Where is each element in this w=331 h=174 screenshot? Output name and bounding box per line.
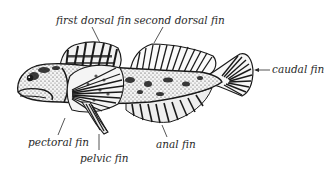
caudal-arrowhead-icon: [254, 68, 259, 72]
label-second-dorsal-fin: second dorsal fin: [134, 15, 225, 26]
fish-anatomy-diagram: first dorsal fin second dorsal fin cauda…: [0, 0, 331, 174]
label-anal-fin: anal fin: [156, 139, 196, 150]
pectoral-fin-shape: [67, 65, 123, 112]
label-first-dorsal-fin: first dorsal fin: [56, 15, 131, 26]
caudal-fin-shape: [210, 54, 253, 96]
label-pelvic-fin: pelvic fin: [80, 153, 129, 164]
label-pectoral-fin: pectoral fin: [28, 137, 89, 148]
label-caudal-fin: caudal fin: [272, 64, 324, 75]
